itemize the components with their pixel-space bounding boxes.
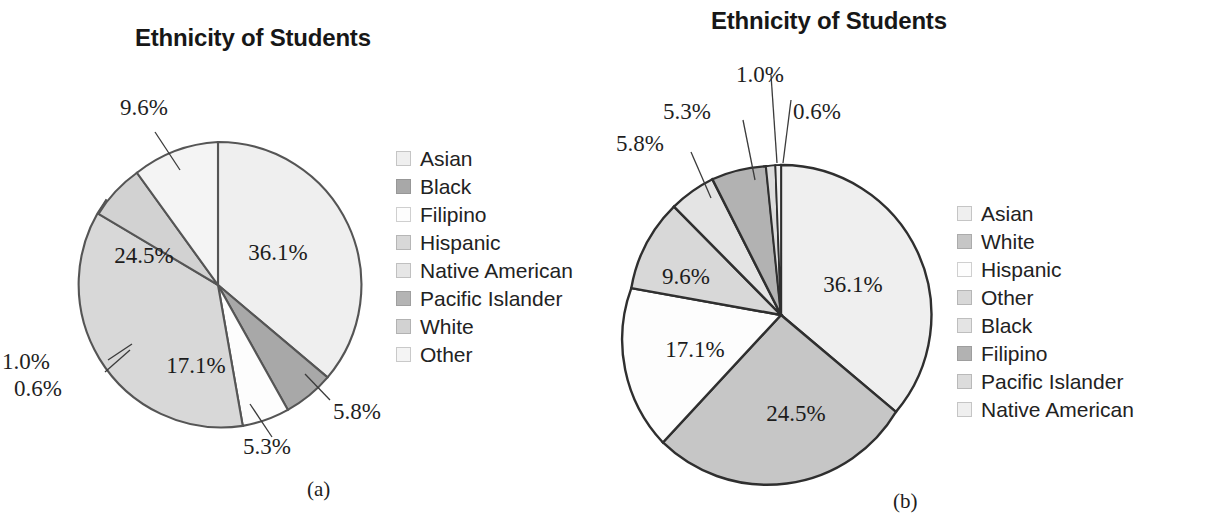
legend-label: Filipino xyxy=(981,343,1048,364)
panel-b-callout-17-1: 17.1% xyxy=(665,337,724,363)
legend-swatch-icon xyxy=(396,263,411,278)
panel-a-callout-5-8: 5.8% xyxy=(333,399,381,425)
legend-item[interactable]: Hispanic xyxy=(957,255,1134,283)
legend-item[interactable]: Filipino xyxy=(957,339,1134,367)
legend-item[interactable]: Hispanic xyxy=(396,228,573,256)
legend-label: Pacific Islander xyxy=(420,288,562,309)
legend-item[interactable]: White xyxy=(396,312,573,340)
panel-a-legend: Asian Black Filipino Hispanic Native Ame… xyxy=(396,144,573,368)
panel-b-callout-5-8: 5.8% xyxy=(616,131,664,157)
legend-label: Filipino xyxy=(420,204,487,225)
legend-label: Other xyxy=(420,344,473,365)
legend-item[interactable]: Pacific Islander xyxy=(957,367,1134,395)
legend-label: Pacific Islander xyxy=(981,371,1123,392)
legend-item[interactable]: Asian xyxy=(957,199,1134,227)
legend-label: Hispanic xyxy=(981,259,1062,280)
legend-swatch-icon xyxy=(957,206,972,221)
panel-a-callout-17-1: 17.1% xyxy=(166,353,225,379)
panel-b-callout-0-6: 0.6% xyxy=(793,99,841,125)
legend-item[interactable]: Other xyxy=(396,340,573,368)
legend-swatch-icon xyxy=(396,319,411,334)
panel-b-legend: Asian White Hispanic Other Black Filipin… xyxy=(957,199,1134,423)
panel-b: Ethnicity of Students 1.0% xyxy=(603,0,1206,530)
panel-b-callout-24-5: 24.5% xyxy=(766,401,825,427)
legend-item[interactable]: Filipino xyxy=(396,200,573,228)
legend-label: Native American xyxy=(420,260,573,281)
panel-b-callout-1-0: 1.0% xyxy=(736,62,784,88)
panel-a-callout-5-3: 5.3% xyxy=(243,434,291,460)
panel-a-callout-1-0: 1.0% xyxy=(2,349,50,375)
legend-label: Black xyxy=(420,176,471,197)
legend-label: Native American xyxy=(981,399,1134,420)
legend-label: Other xyxy=(981,287,1034,308)
panel-a-caption: (a) xyxy=(307,477,330,502)
leader-b-0-6 xyxy=(783,100,791,163)
panel-b-callout-36-1: 36.1% xyxy=(823,272,882,298)
panel-a-callout-36-1: 36.1% xyxy=(248,240,307,266)
legend-swatch-icon xyxy=(957,234,972,249)
panel-a-callout-0-6: 0.6% xyxy=(14,376,62,402)
panel-b-callout-5-3: 5.3% xyxy=(663,99,711,125)
legend-swatch-icon xyxy=(957,290,972,305)
legend-swatch-icon xyxy=(957,374,972,389)
legend-item[interactable]: Pacific Islander xyxy=(396,284,573,312)
legend-swatch-icon xyxy=(396,347,411,362)
legend-label: Black xyxy=(981,315,1032,336)
legend-swatch-icon xyxy=(396,235,411,250)
legend-swatch-icon xyxy=(957,346,972,361)
legend-item[interactable]: Native American xyxy=(957,395,1134,423)
panel-b-caption: (b) xyxy=(893,489,918,514)
panel-a: Ethnicity of Students xyxy=(0,0,603,530)
legend-item[interactable]: Black xyxy=(396,172,573,200)
legend-label: White xyxy=(420,316,474,337)
legend-swatch-icon xyxy=(396,207,411,222)
legend-label: Asian xyxy=(981,203,1034,224)
legend-swatch-icon xyxy=(957,262,972,277)
legend-swatch-icon xyxy=(957,318,972,333)
legend-label: White xyxy=(981,231,1035,252)
legend-swatch-icon xyxy=(957,402,972,417)
legend-swatch-icon xyxy=(396,151,411,166)
panel-a-callout-24-5: 24.5% xyxy=(114,243,173,269)
legend-label: Hispanic xyxy=(420,232,501,253)
panel-b-callout-9-6: 9.6% xyxy=(662,264,710,290)
panel-a-callout-9-6: 9.6% xyxy=(120,95,168,121)
figure-two-pie-charts: Ethnicity of Students xyxy=(0,0,1206,530)
legend-swatch-icon xyxy=(396,291,411,306)
legend-item[interactable]: Black xyxy=(957,311,1134,339)
legend-label: Asian xyxy=(420,148,473,169)
legend-item[interactable]: Asian xyxy=(396,144,573,172)
leader-b-1-0 xyxy=(771,75,777,163)
legend-swatch-icon xyxy=(396,179,411,194)
legend-item[interactable]: White xyxy=(957,227,1134,255)
legend-item[interactable]: Native American xyxy=(396,256,573,284)
legend-item[interactable]: Other xyxy=(957,283,1134,311)
